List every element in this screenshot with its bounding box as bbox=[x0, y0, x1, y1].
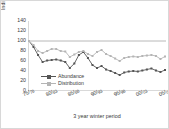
data-point-distribution bbox=[141, 55, 143, 57]
data-point-distribution bbox=[146, 55, 148, 57]
data-point-distribution bbox=[33, 44, 35, 46]
data-point-abundance bbox=[101, 65, 103, 67]
x-axis-title: 3 year winter period bbox=[28, 113, 166, 119]
data-point-abundance bbox=[105, 69, 107, 71]
legend-swatch-icon bbox=[41, 74, 56, 80]
data-point-distribution bbox=[82, 50, 84, 52]
x-axis-tick-labels: 75/7880/8385/8890/9395/9800/0305/08 bbox=[28, 93, 166, 107]
data-point-distribution bbox=[64, 51, 66, 53]
data-point-abundance bbox=[60, 60, 62, 62]
data-point-abundance bbox=[164, 69, 166, 71]
data-point-abundance bbox=[110, 70, 112, 72]
data-point-distribution bbox=[42, 52, 44, 54]
data-point-distribution bbox=[96, 51, 98, 53]
data-point-abundance bbox=[64, 61, 66, 63]
data-point-abundance bbox=[119, 74, 121, 76]
data-point-distribution bbox=[164, 56, 166, 58]
data-point-distribution bbox=[101, 49, 103, 51]
data-point-abundance bbox=[96, 67, 98, 69]
y-tick-label: 80 bbox=[20, 48, 26, 53]
legend-item-abundance[interactable]: Abundance bbox=[41, 73, 84, 80]
data-point-abundance bbox=[141, 70, 143, 72]
y-tick-label: 60 bbox=[20, 58, 26, 63]
y-tick-label: 40 bbox=[20, 68, 26, 73]
data-point-distribution bbox=[55, 48, 57, 50]
data-point-distribution bbox=[110, 55, 112, 57]
data-point-distribution bbox=[60, 50, 62, 52]
data-point-abundance bbox=[137, 71, 139, 73]
data-point-distribution bbox=[69, 56, 71, 58]
y-axis-title: Indices 75-78=100 bbox=[0, 0, 6, 19]
data-point-distribution bbox=[119, 60, 121, 62]
y-tick-label: 140 bbox=[17, 18, 26, 23]
legend-label: Distribution bbox=[58, 80, 84, 87]
data-point-distribution bbox=[137, 56, 139, 58]
data-point-abundance bbox=[159, 71, 161, 73]
data-point-abundance bbox=[114, 72, 116, 74]
chart-figure: Indices 75-78=100 140120100806040200 75/… bbox=[0, 0, 169, 129]
data-point-abundance bbox=[37, 54, 39, 56]
y-axis-tick-labels: 140120100806040200 bbox=[1, 21, 26, 91]
data-point-distribution bbox=[73, 54, 75, 56]
data-point-abundance bbox=[155, 70, 157, 72]
data-point-abundance bbox=[78, 54, 80, 56]
data-point-distribution bbox=[46, 50, 48, 52]
legend-swatch-icon bbox=[41, 81, 56, 87]
legend-label: Abundance bbox=[58, 73, 84, 80]
data-point-distribution bbox=[159, 58, 161, 60]
data-point-abundance bbox=[69, 67, 71, 69]
chart-legend: AbundanceDistribution bbox=[41, 73, 84, 87]
series-line-abundance bbox=[29, 41, 165, 75]
data-point-abundance bbox=[146, 69, 148, 71]
data-point-abundance bbox=[87, 57, 89, 59]
data-point-abundance bbox=[91, 64, 93, 66]
data-point-distribution bbox=[150, 54, 152, 56]
data-point-abundance bbox=[132, 70, 134, 72]
data-point-abundance bbox=[123, 72, 125, 74]
data-point-distribution bbox=[87, 53, 89, 55]
y-tick-label: 120 bbox=[17, 28, 26, 33]
data-point-abundance bbox=[73, 63, 75, 65]
data-point-distribution bbox=[78, 51, 80, 53]
data-point-abundance bbox=[150, 68, 152, 70]
data-point-distribution bbox=[37, 50, 39, 52]
data-point-distribution bbox=[132, 56, 134, 58]
data-point-abundance bbox=[55, 59, 57, 61]
data-point-distribution bbox=[105, 53, 107, 55]
data-point-distribution bbox=[128, 56, 130, 58]
data-point-distribution bbox=[28, 40, 30, 42]
data-point-abundance bbox=[46, 60, 48, 62]
data-point-abundance bbox=[42, 61, 44, 63]
data-point-distribution bbox=[51, 48, 53, 50]
data-point-distribution bbox=[114, 58, 116, 60]
data-point-abundance bbox=[128, 71, 130, 73]
y-tick-label: 100 bbox=[17, 38, 26, 43]
legend-item-distribution[interactable]: Distribution bbox=[41, 80, 84, 87]
data-point-abundance bbox=[51, 59, 53, 61]
data-point-distribution bbox=[123, 57, 125, 59]
data-point-distribution bbox=[155, 55, 157, 57]
y-tick-label: 20 bbox=[20, 78, 26, 83]
data-point-distribution bbox=[91, 55, 93, 57]
